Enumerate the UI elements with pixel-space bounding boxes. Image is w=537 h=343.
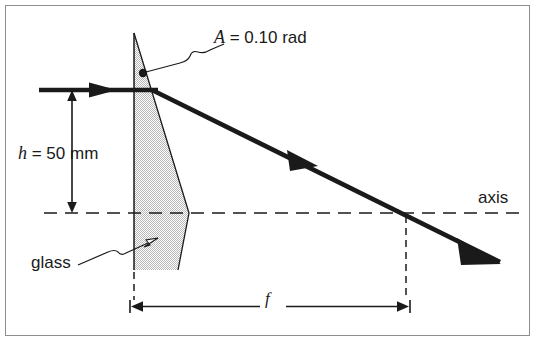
- angle-symbol: A: [214, 27, 225, 47]
- focal-length-label: f: [265, 290, 270, 307]
- incoming-ray-arrowhead: [89, 83, 117, 98]
- refracted-ray-line: [152, 90, 500, 262]
- height-value: = 50 mm: [27, 144, 98, 163]
- focal-dimension-arrow-left: [131, 301, 143, 311]
- angle-value: = 0.10 rad: [225, 28, 307, 47]
- refracted-ray-end-arrowhead: [457, 238, 501, 265]
- angle-label: A = 0.10 rad: [214, 28, 307, 46]
- glass-label: glass: [31, 254, 71, 271]
- refracted-ray: [152, 90, 501, 265]
- glass-wedge: [134, 33, 189, 270]
- height-label: h = 50 mm: [18, 144, 98, 162]
- apex-dot-marker: [139, 69, 147, 77]
- focal-dimension: [130, 297, 410, 316]
- focal-label-backdrop: [260, 297, 286, 316]
- glass-wedge-fill: [134, 33, 189, 270]
- height-symbol: h: [18, 143, 27, 163]
- angle-leader-line: [146, 44, 224, 72]
- height-dimension-arrow-bottom: [67, 202, 77, 213]
- axis-label: axis: [478, 189, 508, 206]
- apex-angle-callout: [139, 44, 224, 77]
- focal-dimension-arrow-right: [397, 301, 409, 311]
- figure-root: A = 0.10 rad h = 50 mm glass axis f: [0, 0, 537, 343]
